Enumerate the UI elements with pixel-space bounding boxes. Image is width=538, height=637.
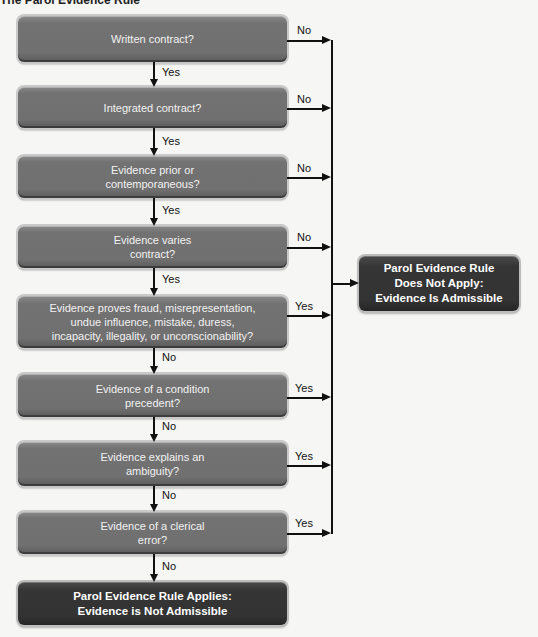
edge-label-down-8: No	[162, 560, 176, 572]
edge-label-right-3: No	[297, 162, 311, 174]
connector-right-1	[287, 40, 323, 42]
edge-label-down-5: No	[162, 351, 176, 363]
arrow-right-icon	[322, 173, 331, 181]
connector-right-7	[287, 465, 323, 467]
connector-down-3	[153, 198, 155, 219]
connector-down-2	[153, 128, 155, 149]
connector-down-4	[153, 268, 155, 289]
outcome-text: Parol Evidence Rule Does Not Apply: Evid…	[375, 261, 502, 306]
decision-text: Evidence of a condition precedent?	[96, 382, 210, 410]
figure-title: The Parol Evidence Rule	[0, 0, 140, 7]
connector-to-admissible	[331, 283, 351, 285]
arrow-right-icon	[322, 104, 331, 112]
arrow-down-icon	[150, 504, 158, 512]
edge-label-down-1: Yes	[162, 66, 180, 78]
outcome-admissible: Parol Evidence Rule Does Not Apply: Evid…	[359, 256, 519, 311]
decision-fraud-exceptions: Evidence proves fraud, misrepresentation…	[18, 296, 287, 348]
edge-label-down-3: Yes	[162, 204, 180, 216]
connector-right-4	[287, 247, 323, 249]
decision-text: Evidence explains an ambiguity?	[101, 450, 205, 478]
arrow-down-icon	[150, 434, 158, 442]
decision-varies-contract: Evidence varies contract?	[18, 226, 287, 268]
outcome-text: Parol Evidence Rule Applies: Evidence is…	[73, 589, 232, 619]
arrow-right-icon	[322, 311, 331, 319]
arrow-right-icon	[322, 461, 331, 469]
edge-label-down-6: No	[162, 420, 176, 432]
arrow-right-icon	[322, 529, 331, 537]
outcome-not-admissible: Parol Evidence Rule Applies: Evidence is…	[18, 582, 287, 625]
decision-explains-ambiguity: Evidence explains an ambiguity?	[18, 442, 287, 486]
decision-clerical-error: Evidence of a clerical error?	[18, 512, 287, 554]
decision-condition-precedent: Evidence of a condition precedent?	[18, 374, 287, 417]
arrow-down-icon	[150, 574, 158, 582]
decision-text: Written contract?	[111, 32, 194, 46]
decision-text: Evidence of a clerical error?	[101, 519, 205, 547]
decision-prior-or-contemporaneous: Evidence prior or contemporaneous?	[18, 156, 287, 198]
arrow-down-icon	[150, 148, 158, 156]
decision-text: Evidence varies contract?	[114, 233, 192, 261]
connector-right-6	[287, 397, 323, 399]
connector-right-3	[287, 177, 323, 179]
arrow-down-icon	[150, 288, 158, 296]
edge-label-right-4: No	[297, 231, 311, 243]
edge-label-right-1: No	[297, 24, 311, 36]
connector-down-5	[153, 348, 155, 367]
edge-label-right-7: Yes	[295, 450, 313, 462]
decision-text: Evidence prior or contemporaneous?	[105, 163, 199, 191]
edge-label-right-6: Yes	[295, 382, 313, 394]
decision-integrated-contract: Integrated contract?	[18, 87, 287, 128]
connector-down-8	[153, 554, 155, 575]
connector-down-1	[153, 62, 155, 80]
arrow-right-icon	[350, 279, 359, 287]
decision-text: Integrated contract?	[104, 101, 202, 115]
edge-label-down-4: Yes	[162, 273, 180, 285]
connector-right-8	[287, 533, 323, 535]
connector-trunk	[331, 40, 333, 534]
arrow-down-icon	[150, 79, 158, 87]
edge-label-down-2: Yes	[162, 135, 180, 147]
edge-label-right-8: Yes	[295, 517, 313, 529]
decision-text: Evidence proves fraud, misrepresentation…	[49, 301, 255, 343]
connector-right-5	[287, 315, 323, 317]
arrow-right-icon	[322, 393, 331, 401]
arrow-right-icon	[322, 243, 331, 251]
connector-down-7	[153, 486, 155, 505]
connector-right-2	[287, 108, 323, 110]
arrow-right-icon	[322, 36, 331, 44]
edge-label-down-7: No	[162, 489, 176, 501]
arrow-down-icon	[150, 218, 158, 226]
connector-down-6	[153, 417, 155, 435]
decision-written-contract: Written contract?	[18, 16, 287, 62]
edge-label-right-2: No	[297, 93, 311, 105]
arrow-down-icon	[150, 366, 158, 374]
edge-label-right-5: Yes	[295, 300, 313, 312]
